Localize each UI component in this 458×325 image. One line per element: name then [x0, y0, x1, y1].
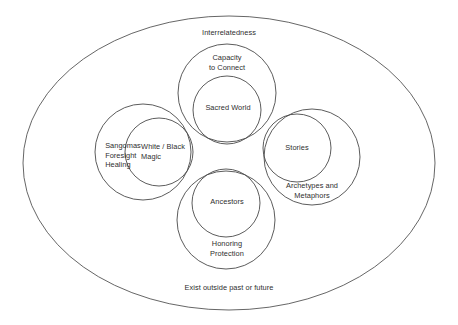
- petal-right-inner-circle: [263, 114, 331, 182]
- petal-bottom-inner-circle: [192, 169, 260, 237]
- petal-left-inner-circle: [125, 118, 193, 186]
- venn-diagram: Interrelatedness Capacity to Connect Sac…: [0, 0, 458, 325]
- petal-top-inner-circle: [193, 76, 261, 144]
- venn-shapes-svg: [0, 0, 458, 325]
